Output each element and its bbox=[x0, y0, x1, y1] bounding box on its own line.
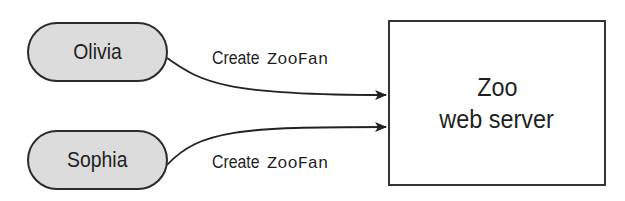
client-label: Olivia bbox=[73, 39, 121, 65]
client-label: Sophia bbox=[67, 147, 127, 173]
server-label-line1: Zoo bbox=[477, 71, 517, 103]
edge-class-name: ZooFan bbox=[267, 50, 328, 69]
client-node-sophia: Sophia bbox=[27, 130, 168, 190]
client-node-olivia: Olivia bbox=[27, 22, 168, 82]
edge-action: Create bbox=[212, 48, 260, 69]
server-label-line2: web server bbox=[440, 103, 554, 135]
edge-action: Create bbox=[212, 152, 260, 173]
edge-label-sophia: Create ZooFan bbox=[212, 152, 328, 173]
server-node: Zoo web server bbox=[388, 20, 606, 186]
edge-label-olivia: Create ZooFan bbox=[212, 48, 328, 69]
edge-class-name: ZooFan bbox=[267, 154, 328, 173]
